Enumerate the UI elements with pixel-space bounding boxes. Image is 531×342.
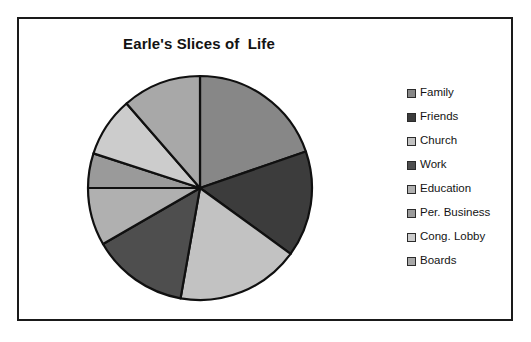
legend-item[interactable]: Per. Business	[407, 201, 511, 225]
legend-swatch-cong-lobby	[407, 233, 416, 242]
legend-item-label: Family	[420, 87, 454, 99]
legend-item-label: Per. Business	[420, 207, 490, 219]
legend-item[interactable]: Work	[407, 153, 511, 177]
pie-slice-group	[88, 76, 312, 300]
legend-swatch-friends	[407, 113, 416, 122]
pie-chart	[85, 73, 315, 303]
legend-item-label: Church	[420, 135, 457, 147]
legend-swatch-education	[407, 185, 416, 194]
legend-swatch-boards	[407, 257, 416, 266]
legend-item-label: Friends	[420, 111, 458, 123]
legend-item[interactable]: Friends	[407, 105, 511, 129]
legend-item[interactable]: Church	[407, 129, 511, 153]
pie-svg	[85, 73, 315, 303]
chart-frame: Earle's Slices of Life FamilyFriendsChur…	[17, 17, 513, 321]
chart-legend: FamilyFriendsChurchWorkEducationPer. Bus…	[407, 81, 511, 273]
chart-title: Earle's Slices of Life	[19, 35, 379, 52]
legend-item-label: Cong. Lobby	[420, 231, 485, 243]
legend-swatch-work	[407, 161, 416, 170]
legend-swatch-church	[407, 137, 416, 146]
legend-item-label: Boards	[420, 255, 456, 267]
legend-item[interactable]: Boards	[407, 249, 511, 273]
legend-item-label: Education	[420, 183, 471, 195]
legend-swatch-per-business	[407, 209, 416, 218]
legend-item[interactable]: Cong. Lobby	[407, 225, 511, 249]
legend-item-label: Work	[420, 159, 447, 171]
legend-item[interactable]: Family	[407, 81, 511, 105]
legend-item[interactable]: Education	[407, 177, 511, 201]
legend-swatch-family	[407, 89, 416, 98]
